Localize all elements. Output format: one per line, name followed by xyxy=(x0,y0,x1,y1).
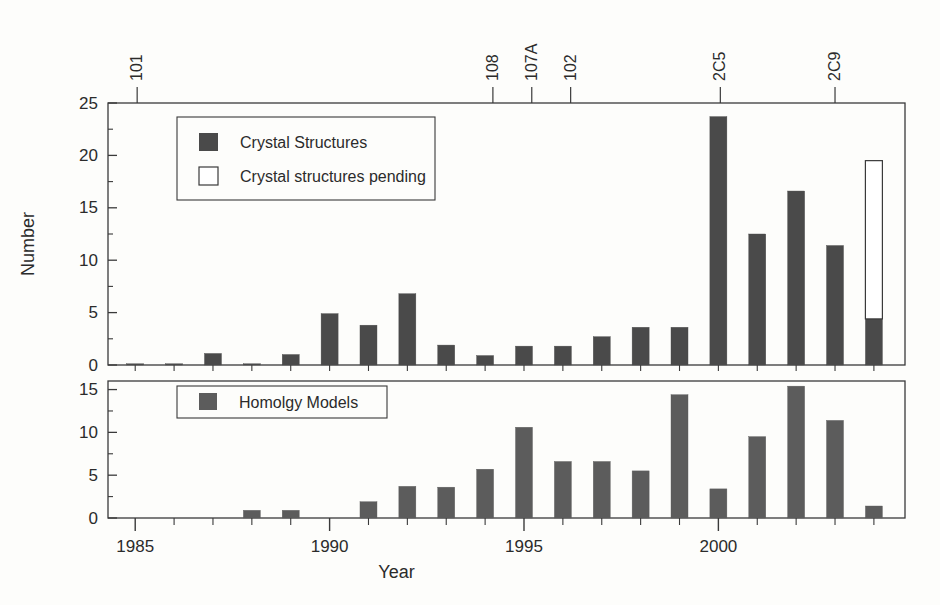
bar-homology-models xyxy=(749,437,766,518)
bar-crystal-structures xyxy=(204,353,221,365)
bar-homology-models xyxy=(593,461,610,518)
bar-crystal-structures xyxy=(671,327,688,365)
bar-crystal-structures xyxy=(399,294,416,365)
legend-swatch-crystal-structures-pending xyxy=(199,167,218,185)
bar-homology-models xyxy=(554,461,571,518)
bar-crystal-structures xyxy=(360,325,377,365)
bar-crystal-structures xyxy=(865,319,882,365)
chart-figure: 0510152025Number101108107A1022C52C9Cryst… xyxy=(0,0,940,605)
bar-homology-models xyxy=(671,395,688,518)
top-annotation-label: 108 xyxy=(484,54,501,81)
top-annotation-label: 107A xyxy=(523,43,540,81)
upper-y-tick-label: 10 xyxy=(79,251,98,270)
chart-canvas: 0510152025Number101108107A1022C52C9Cryst… xyxy=(0,0,940,605)
lower-y-tick-label: 10 xyxy=(79,423,98,442)
bar-crystal-structures xyxy=(749,234,766,365)
bar-homology-models xyxy=(710,489,727,518)
top-annotation-label: 2C9 xyxy=(826,52,843,81)
bar-crystal-structures xyxy=(632,327,649,365)
bar-crystal-structures xyxy=(166,364,183,365)
upper-y-tick-label: 0 xyxy=(89,356,98,375)
bar-crystal-structures xyxy=(515,346,532,365)
bar-crystal-structures xyxy=(243,364,260,365)
bar-crystal-structures xyxy=(282,355,299,365)
upper-y-tick-label: 5 xyxy=(89,303,98,322)
bar-crystal-structures xyxy=(827,246,844,365)
bar-crystal-structures xyxy=(788,191,805,365)
lower-legend-label: Homolgy Models xyxy=(239,394,358,411)
bar-homology-models xyxy=(438,487,455,518)
top-annotation-label: 102 xyxy=(562,54,579,81)
bar-crystal-structures xyxy=(477,356,494,365)
upper-y-tick-label: 25 xyxy=(79,94,98,113)
bar-crystal-structures xyxy=(710,117,727,365)
bar-crystal-structures xyxy=(127,364,144,365)
top-annotation-label: 2C5 xyxy=(711,52,728,81)
bar-homology-models xyxy=(477,469,494,518)
bar-homology-models xyxy=(632,471,649,518)
top-annotation-label: 101 xyxy=(128,54,145,81)
bar-homology-models xyxy=(515,427,532,518)
x-axis-label: Year xyxy=(378,562,414,582)
bar-crystal-structures xyxy=(438,345,455,365)
bar-homology-models xyxy=(282,510,299,518)
lower-y-tick-label: 15 xyxy=(79,380,98,399)
lower-y-tick-label: 5 xyxy=(89,466,98,485)
x-tick-label: 1985 xyxy=(116,537,154,556)
upper-legend-label: Crystal structures pending xyxy=(240,168,426,185)
bar-homology-models xyxy=(865,506,882,518)
x-tick-label: 1995 xyxy=(505,537,543,556)
bar-homology-models xyxy=(788,386,805,518)
legend-swatch-crystal-structures xyxy=(199,133,218,151)
upper-legend-label: Crystal Structures xyxy=(240,134,367,151)
bar-homology-models xyxy=(243,510,260,518)
bar-crystal-structures xyxy=(321,314,338,365)
bar-homology-models xyxy=(360,502,377,518)
upper-y-tick-label: 15 xyxy=(79,198,98,217)
bar-homology-models xyxy=(827,420,844,518)
lower-y-tick-label: 0 xyxy=(89,509,98,528)
upper-y-tick-label: 20 xyxy=(79,146,98,165)
y-axis-label: Number xyxy=(18,212,38,276)
x-tick-label: 1990 xyxy=(311,537,349,556)
x-tick-label: 2000 xyxy=(699,537,737,556)
bar-crystal-structures xyxy=(593,337,610,365)
bar-homology-models xyxy=(399,486,416,518)
legend-swatch-homology-models xyxy=(199,393,217,410)
bar-crystal-structures-pending xyxy=(865,161,882,319)
bar-crystal-structures xyxy=(554,346,571,365)
